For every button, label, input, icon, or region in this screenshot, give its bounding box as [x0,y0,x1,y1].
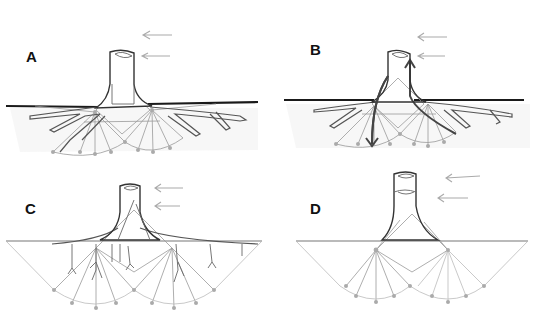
wind-arrow-icon [446,174,480,182]
root-system-figure: A B C D [0,0,553,320]
panel-label-c: C [25,200,36,217]
tree-stump [96,50,152,108]
wind-arrow-icon [155,184,183,192]
panel-a [6,31,258,156]
panel-label-d: D [310,200,321,217]
diagram-canvas [0,0,553,320]
wind-arrow-icon [418,53,445,59]
wind-arrow-icon [142,53,170,59]
wind-arrow-icon [155,202,180,210]
panel-label-a: A [26,48,37,65]
panel-d [296,172,528,304]
sinker-roots [52,228,258,282]
panel-c [6,184,262,310]
wind-arrow-icon [438,194,468,202]
wind-arrow-icon [418,33,447,41]
tree-stump [382,172,438,240]
panel-label-b: B [310,41,321,58]
wind-arrow-icon [143,31,172,39]
